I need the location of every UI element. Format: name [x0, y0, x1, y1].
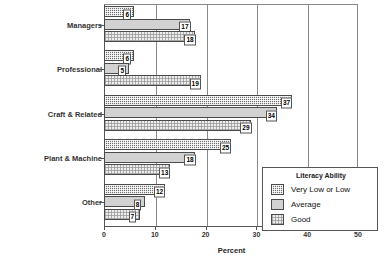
bar-value-label: 25 — [220, 142, 231, 153]
bar — [104, 120, 251, 131]
legend-swatch-icon — [271, 199, 284, 210]
legend-label: Good — [291, 214, 311, 225]
bar — [104, 75, 201, 86]
x-tick-label-0: 0 — [102, 231, 106, 238]
x-tick-label-10: 10 — [151, 231, 159, 238]
x-tick-label-20: 20 — [202, 231, 210, 238]
legend: Literacy Ability Very Low or LowAverageG… — [262, 167, 378, 231]
bar-value-label: 7 — [129, 212, 137, 223]
category-label: Craft & Related — [48, 109, 102, 118]
legend-swatch-icon — [271, 214, 284, 225]
bar-chart: Percent 01020304050 ManagersProfessional… — [0, 0, 384, 264]
legend-label: Average — [291, 199, 321, 210]
x-tick-20 — [206, 226, 207, 230]
bar-value-label: 12 — [154, 187, 165, 198]
bar-value-label: 19 — [190, 78, 201, 89]
bar-value-label: 37 — [281, 98, 292, 109]
category-label: Plant & Machine — [44, 153, 102, 162]
category-label: Managers — [67, 20, 102, 29]
x-tick-0 — [104, 226, 105, 230]
x-tick-label-40: 40 — [303, 231, 311, 238]
bar — [104, 152, 195, 163]
bar-value-label: 18 — [184, 34, 195, 45]
bar — [104, 139, 231, 150]
bar-value-label: 18 — [184, 155, 195, 166]
category-label: Professional — [57, 65, 102, 74]
legend-label: Very Low or Low — [291, 184, 350, 195]
bar-value-label: 13 — [159, 167, 170, 178]
bar — [104, 107, 277, 118]
x-tick-30 — [256, 226, 257, 230]
x-tick-label-50: 50 — [354, 231, 362, 238]
bar-value-label: 29 — [240, 123, 251, 134]
bar — [104, 31, 195, 42]
legend-title: Literacy Ability — [263, 172, 379, 179]
x-axis-label: Percent — [104, 246, 359, 255]
x-tick-label-30: 30 — [252, 231, 260, 238]
bar — [104, 19, 190, 30]
bar-value-label: 34 — [266, 110, 277, 121]
x-tick-10 — [155, 226, 156, 230]
bar — [104, 95, 292, 106]
legend-swatch-icon — [271, 184, 284, 195]
